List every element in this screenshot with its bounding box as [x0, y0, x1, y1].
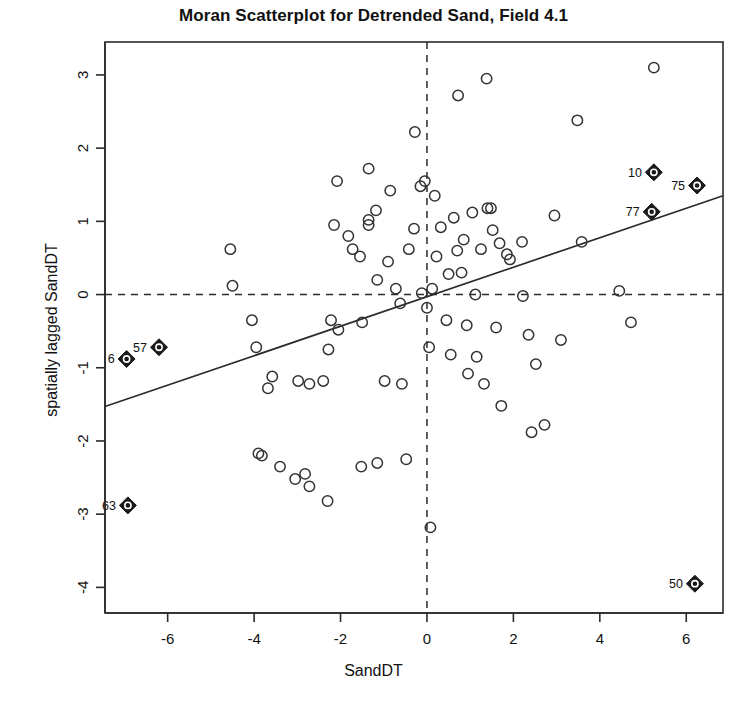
- data-point-marker: [626, 317, 636, 327]
- data-point-marker: [304, 481, 314, 491]
- x-axis-tick-label: -2: [334, 630, 347, 647]
- point-label: 75: [671, 179, 685, 193]
- point-label: 6: [108, 352, 115, 366]
- data-point-marker: [572, 115, 582, 125]
- data-point-marker: [322, 496, 332, 506]
- data-point-marker: [494, 238, 504, 248]
- data-point-marker: [332, 176, 342, 186]
- data-point-marker: [491, 322, 501, 332]
- data-point-marker: [225, 244, 235, 254]
- data-point-marker: [300, 469, 310, 479]
- point-label: 77: [626, 205, 640, 219]
- data-point-marker: [385, 185, 395, 195]
- data-point-marker: [526, 427, 536, 437]
- data-point-marker: [326, 315, 336, 325]
- x-axis-tick-label: 6: [682, 630, 690, 647]
- data-point-marker: [436, 222, 446, 232]
- y-axis-tick-label: -3: [75, 508, 92, 521]
- data-point-marker: [427, 284, 437, 294]
- data-point-marker: [487, 225, 497, 235]
- x-axis-tick-label: 2: [509, 630, 517, 647]
- y-axis-tick-label: -4: [75, 581, 92, 594]
- data-point-marker: [431, 251, 441, 261]
- scatterplot-canvas: 6576310757750 -6-4-20246 3210-1-2-3-4: [0, 0, 747, 711]
- data-point-marker: [372, 275, 382, 285]
- data-point-marker: [649, 62, 659, 72]
- influential-point-marker: [686, 575, 703, 592]
- x-axis-label: SandDT: [0, 662, 747, 680]
- data-point-marker: [371, 205, 381, 215]
- data-point-marker: [227, 281, 237, 291]
- data-point-marker: [539, 420, 549, 430]
- data-point-marker: [304, 379, 314, 389]
- data-point-marker: [556, 335, 566, 345]
- point-label: 10: [628, 166, 642, 180]
- data-point-marker: [395, 298, 405, 308]
- data-point-marker: [410, 127, 420, 137]
- data-point-marker: [476, 244, 486, 254]
- x-axis-tick-label: -6: [161, 630, 174, 647]
- data-point-marker: [329, 220, 339, 230]
- data-point-marker: [417, 288, 427, 298]
- y-axis-tick-label: -1: [75, 361, 92, 374]
- x-axis-tick-label: 4: [596, 630, 604, 647]
- data-point-marker: [391, 284, 401, 294]
- data-point-marker: [372, 458, 382, 468]
- y-axis-tick-label: 3: [75, 71, 92, 79]
- x-axis: -6-4-20246: [105, 613, 723, 647]
- data-point-marker: [401, 454, 411, 464]
- influential-point-marker: [119, 497, 136, 514]
- y-axis-label: spatially lagged SandDT: [43, 30, 61, 630]
- data-point-marker: [356, 461, 366, 471]
- y-axis-tick-label: 1: [75, 217, 92, 225]
- data-point-marker: [549, 210, 559, 220]
- data-point-marker: [479, 379, 489, 389]
- data-point-marker: [462, 320, 472, 330]
- data-point-marker: [471, 352, 481, 362]
- data-point-marker: [467, 207, 477, 217]
- point-label: 57: [133, 341, 147, 355]
- data-point-marker: [449, 212, 459, 222]
- data-point-marker: [318, 376, 328, 386]
- influential-point-marker: [151, 339, 168, 356]
- x-axis-tick-label: -4: [247, 630, 260, 647]
- data-point-marker: [404, 244, 414, 254]
- data-point-marker: [523, 330, 533, 340]
- data-point-marker: [456, 267, 466, 277]
- y-axis-tick-label: 0: [75, 290, 92, 298]
- data-point-marker: [247, 315, 257, 325]
- data-point-marker: [267, 371, 277, 381]
- y-axis: 3210-1-2-3-4: [75, 42, 106, 613]
- x-axis-tick-label: 0: [423, 630, 431, 647]
- point-label: 50: [669, 577, 683, 591]
- data-point-marker: [383, 256, 393, 266]
- data-point-marker: [518, 291, 528, 301]
- data-point-marker: [424, 342, 434, 352]
- regression-line: [105, 196, 723, 407]
- data-point-marker: [496, 401, 506, 411]
- data-point-marker: [363, 163, 373, 173]
- data-point-marker: [453, 90, 463, 100]
- data-point-marker: [251, 342, 261, 352]
- point-label: 63: [102, 499, 116, 513]
- y-axis-tick-label: 2: [75, 144, 92, 152]
- data-point-marker: [443, 269, 453, 279]
- data-point-marker: [481, 73, 491, 83]
- data-point-marker: [441, 315, 451, 325]
- data-point-marker: [409, 223, 419, 233]
- data-point-marker: [343, 231, 353, 241]
- influential-point-marker: [645, 164, 662, 181]
- data-point-marker: [517, 237, 527, 247]
- data-point-marker: [263, 383, 273, 393]
- influential-point-marker: [689, 177, 706, 194]
- data-point-marker: [463, 368, 473, 378]
- data-point-marker: [397, 379, 407, 389]
- data-point-marker: [355, 251, 365, 261]
- moran-regression-line: [105, 196, 723, 407]
- data-point-marker: [430, 191, 440, 201]
- data-point-marker: [446, 349, 456, 359]
- moran-scatterplot-figure: Moran Scatterplot for Detrended Sand, Fi…: [0, 0, 747, 711]
- data-point-marker: [614, 286, 624, 296]
- data-point-marker: [531, 359, 541, 369]
- data-point-marker: [257, 450, 267, 460]
